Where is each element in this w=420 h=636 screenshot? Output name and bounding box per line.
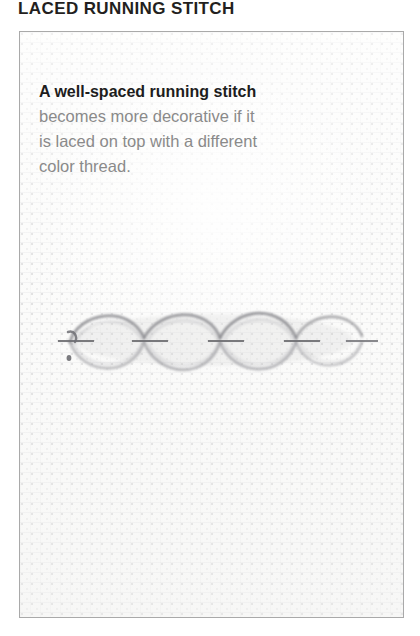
caption-line-1: becomes more decorative if it [39,104,369,129]
stitch-svg [48,272,378,397]
caption-line-3: color thread. [39,154,369,179]
page-title: LACED RUNNING STITCH [18,0,235,19]
stitch-photo-panel: A well-spaced running stitch becomes mor… [19,31,404,618]
caption-line-2: is laced on top with a different [39,129,369,154]
laced-running-stitch-illustration [48,272,378,397]
caption-block: A well-spaced running stitch becomes mor… [39,79,369,179]
caption-lead-line: A well-spaced running stitch [39,79,369,104]
